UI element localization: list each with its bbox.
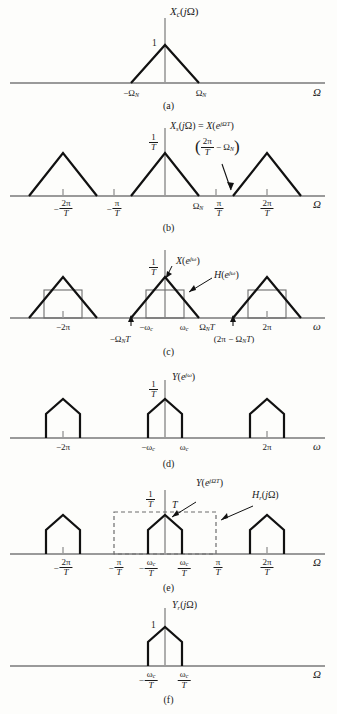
tick-neg-2pi-T-e: −2πT [53, 558, 72, 577]
tick-neg-2pi-c: −2π [56, 322, 70, 332]
panel-e-filter-label: Hr(jΩ) [252, 490, 279, 501]
panel-letter-c: (c) [0, 346, 337, 357]
axis-label-omega-e: Ω [313, 556, 321, 568]
panel-d: Y(ejω) 1T ω −2π −ωc ωc 2π (d) [0, 366, 337, 476]
figure-sampling-reconstruction: Ω 1 −ΩN ΩN Xc(jΩ) (a) Xs(jΩ) = X(ejΩT) 1… [0, 0, 337, 714]
panel-c-plot [0, 240, 337, 332]
panel-letter-e: (e) [0, 582, 337, 593]
panel-c-signal-label: X(ejω) [176, 256, 200, 266]
panel-d-plot [0, 366, 337, 452]
tick-omega-n-a: ΩN [196, 88, 207, 98]
panel-e-plot [0, 476, 337, 572]
peak-value-e: 1T [146, 490, 155, 509]
tick-omega-c-T-e: ωcT [178, 558, 191, 578]
panel-e: Y(ejΩT) Hr(jΩ) 1T T Ω −2πT −πT −ωcT ωcT … [0, 476, 337, 600]
panel-f: Yr(jΩ) 1 Ω −ωcT ωcT (f) [0, 600, 337, 710]
tick-2pi-T-b: 2πT [260, 199, 273, 218]
axis-label-omega-f: Ω [313, 668, 321, 680]
axis-label-omega-c: ω [313, 320, 321, 332]
panel-b-plot [0, 118, 337, 210]
panel-c-filter-label: H(ejω) [214, 270, 239, 280]
panel-letter-a: (a) [0, 100, 337, 111]
tick-neg-pi-T-e: −πT [108, 558, 123, 577]
panel-d-title: Y(ejω) [172, 372, 195, 382]
panel-a-title: Xc(jΩ) [170, 6, 199, 19]
tick-neg-omega-c-T-f: −ωcT [139, 670, 158, 690]
tick-neg-omega-c-T-e: −ωcT [139, 558, 158, 578]
panel-a-plot [0, 0, 337, 100]
tick-omega-c-c: ωc [180, 322, 189, 332]
tick-neg-pi-T-b: −πT [106, 199, 121, 218]
tick-2pi-T-e: 2πT [260, 558, 273, 577]
tick-neg-omega-c-c: −ωc [139, 322, 153, 332]
annotation-arrowhead [227, 182, 234, 190]
tick-neg-2pi-d: −2π [56, 442, 70, 452]
panel-b: Xs(jΩ) = X(ejΩT) 1T (2πT − ΩN) Ω −2πT −π… [0, 118, 337, 238]
peak-value-f: 1 [151, 620, 156, 630]
peak-value-b: 1T [149, 133, 158, 152]
tick-neg-omega-n-a: −ΩN [123, 88, 139, 98]
panel-e-signal-label: Y(ejΩT) [196, 478, 223, 488]
panel-letter-d: (d) [0, 458, 337, 469]
annotation-alias-edge-b: (2πT − ΩN) [195, 137, 240, 157]
panel-c: X(ejω) H(ejω) 1T ω −2π 2π −ωc ωc ΩNT −ΩN… [0, 240, 337, 362]
page-caption-cutoff [0, 700, 337, 714]
gain-value-e: T [172, 500, 178, 510]
axis-label-omega-b: Ω [313, 198, 321, 210]
tick-omega-n-b: ΩN [193, 201, 204, 211]
tick-omega-c-T-f: ωcT [178, 670, 191, 690]
tick-pi-T-e: πT [213, 558, 222, 577]
tick-2pi-c: 2π [262, 322, 271, 332]
filter-arrowhead [189, 285, 196, 292]
panel-letter-b: (b) [0, 222, 337, 233]
panel-f-title: Yr(jΩ) [172, 600, 197, 611]
peak-value-c: 1T [149, 258, 158, 277]
panel-b-title: Xs(jΩ) = X(ejΩT) [170, 121, 234, 132]
tick-neg-omega-n-T-c: −ΩNT [110, 334, 131, 344]
peak-value-a: 1 [152, 38, 157, 48]
panel-a: Ω 1 −ΩN ΩN Xc(jΩ) (a) [0, 0, 337, 115]
axis-label-omega-a: Ω [313, 86, 321, 98]
peak-value-d: 1T [149, 380, 158, 399]
tick-alias-edge-c: (2π − ΩNT) [214, 334, 254, 344]
tick-pi-T-b: πT [214, 199, 223, 218]
panel-f-plot [0, 600, 337, 680]
tick-2pi-d: 2π [262, 442, 271, 452]
axis-label-omega-d: ω [313, 440, 321, 452]
tick-neg-2pi-T-b: −2πT [53, 199, 72, 218]
tick-omega-n-T-c: ΩNT [199, 322, 215, 332]
signal-arrowhead [172, 510, 179, 517]
filter-arrowhead [221, 513, 228, 520]
tick-omega-c-d: ωc [180, 442, 189, 452]
tick-neg-omega-c-d: −ωc [141, 442, 155, 452]
